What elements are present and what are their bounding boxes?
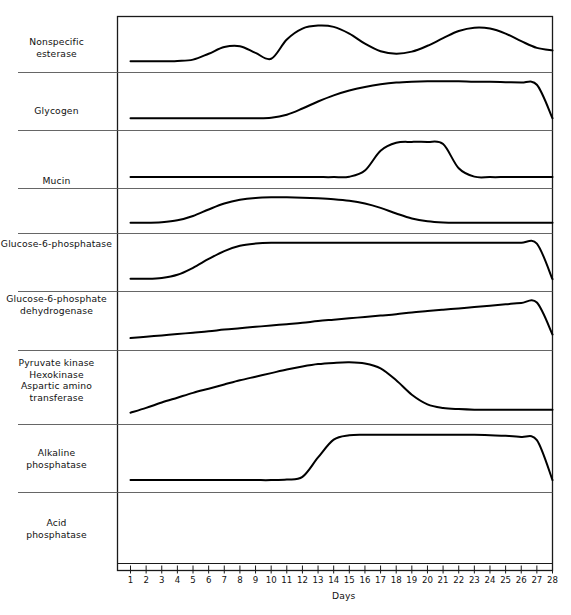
panel-dividers bbox=[18, 73, 553, 564]
axis-tick-label: 1 bbox=[128, 575, 133, 585]
x-axis-title: Days bbox=[0, 590, 571, 601]
axis-tick-label: 11 bbox=[281, 575, 292, 585]
axis-tick-label: 28 bbox=[547, 575, 558, 585]
curve-glycogen bbox=[131, 81, 553, 118]
axis-tick-label: 6 bbox=[206, 575, 211, 585]
axis-tick-label: 26 bbox=[516, 575, 527, 585]
axis-ticks bbox=[131, 566, 553, 574]
axis-tick-label: 19 bbox=[406, 575, 417, 585]
axis-tick-label: 7 bbox=[222, 575, 227, 585]
axis-tick-label: 21 bbox=[438, 575, 449, 585]
axis-tick-label: 18 bbox=[391, 575, 402, 585]
axis-tick-label: 15 bbox=[344, 575, 355, 585]
axis-tick-label: 25 bbox=[500, 575, 511, 585]
plot-area bbox=[0, 0, 571, 615]
curve-pyruvate-kinase-group bbox=[131, 300, 553, 338]
axis-tick-label: 17 bbox=[375, 575, 386, 585]
axis-tick-label: 16 bbox=[359, 575, 370, 585]
plot-frame bbox=[118, 17, 553, 571]
enzyme-activity-figure: Nonspecificesterase Glycogen Mucin Gluco… bbox=[0, 0, 571, 615]
curve-nonspecific-esterase bbox=[131, 25, 553, 61]
axis-tick-label: 22 bbox=[453, 575, 464, 585]
axis-tick-label: 20 bbox=[422, 575, 433, 585]
curve-glucose-6-phosphatase bbox=[131, 197, 553, 223]
axis-tick-label: 2 bbox=[143, 575, 148, 585]
curve-layer bbox=[131, 25, 553, 480]
curve-acid-phosphatase bbox=[131, 435, 553, 480]
curve-glucose-6-phosphate-dehydrogenase bbox=[131, 241, 553, 280]
axis-tick-label: 10 bbox=[266, 575, 277, 585]
axis-tick-label: 13 bbox=[313, 575, 324, 585]
curve-alkaline-phosphatase bbox=[131, 362, 553, 412]
axis-tick-label: 27 bbox=[531, 575, 542, 585]
axis-tick-label: 4 bbox=[175, 575, 180, 585]
axis-tick-label: 8 bbox=[237, 575, 242, 585]
axis-tick-label: 3 bbox=[159, 575, 164, 585]
curve-mucin bbox=[131, 141, 553, 177]
axis-tick-label: 23 bbox=[469, 575, 480, 585]
axis-tick-label: 24 bbox=[485, 575, 496, 585]
axis-tick-label: 14 bbox=[328, 575, 339, 585]
axis-tick-label: 9 bbox=[253, 575, 258, 585]
axis-tick-label: 5 bbox=[190, 575, 195, 585]
axis-tick-label: 12 bbox=[297, 575, 308, 585]
plot-border bbox=[118, 17, 553, 571]
